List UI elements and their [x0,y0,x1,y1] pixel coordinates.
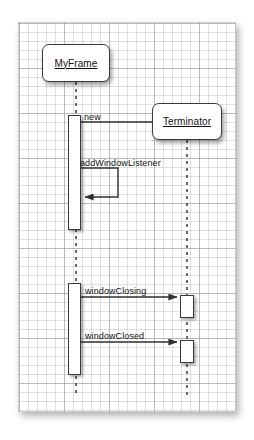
activation-bar-terminator-1[interactable] [180,295,194,318]
message-label-windowclosing: windowClosing [85,286,146,296]
participant-box-myframe[interactable]: MyFrame [42,44,110,82]
activation-bar-myframe-1[interactable] [68,115,81,230]
message-label-new: new [84,112,101,122]
message-label-windowclosed: windowClosed [85,331,144,341]
participant-box-terminator[interactable]: Terminator [152,103,222,140]
activation-bar-terminator-2[interactable] [180,340,194,363]
diagram-vector-layer [0,0,254,440]
participant-label-terminator: Terminator [163,116,211,127]
message-label-addwindowlistener: addWindowListener [80,158,161,168]
message-arrow-addwindowlistener [81,168,118,197]
participant-label-myframe: MyFrame [55,58,98,69]
sequence-diagram-screenshot: MyFrame Terminator new addWindowListener… [0,0,254,440]
activation-bar-myframe-2[interactable] [68,283,81,375]
